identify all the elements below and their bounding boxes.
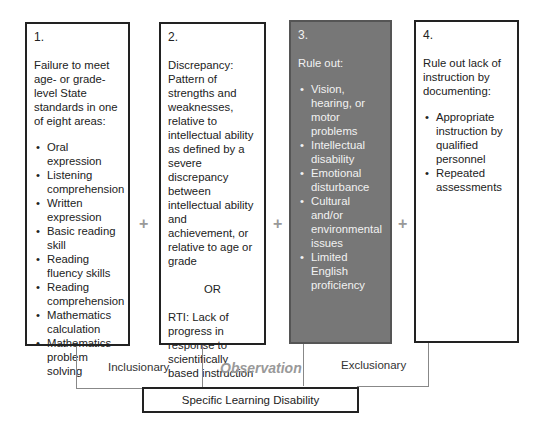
- box-intro: Rule out:: [298, 56, 383, 70]
- plus-icon: +: [398, 216, 407, 232]
- plus-icon: +: [273, 216, 282, 232]
- bracket-line-2: [202, 345, 203, 387]
- criterion-box-3: 3. Rule out: Vision, hearing, or motor p…: [289, 20, 392, 344]
- exclusionary-label: Exclusionary: [341, 359, 406, 371]
- criterion-box-2: 2. Discrepancy: Pattern of strengths and…: [159, 22, 266, 345]
- list-item: Intellectual disability: [311, 138, 383, 166]
- documentation-list: Appropriate instruction by qualified per…: [423, 110, 510, 194]
- criterion-box-4: 4. Rule out lack of instruction by docum…: [414, 20, 519, 343]
- list-item: Repeated assessments: [436, 166, 510, 194]
- list-item: Cultural and/or environmental issues: [311, 194, 383, 250]
- observation-label: Observation: [220, 360, 302, 376]
- list-item: Written expression: [47, 196, 121, 224]
- box-intro: Failure to meet age- or grade-level Stat…: [34, 58, 121, 128]
- bracket-line-3: [303, 344, 304, 386]
- plus-icon: +: [139, 216, 148, 232]
- list-item: Emotional disturbance: [311, 166, 383, 194]
- box-number: 2.: [168, 30, 257, 44]
- list-item: Listening comprehension: [47, 168, 121, 196]
- box-number: 4.: [423, 28, 510, 42]
- list-item: Basic reading skill: [47, 224, 121, 252]
- inclusionary-label: Inclusionary: [108, 361, 169, 373]
- criteria-list: Oral expression Listening comprehension …: [34, 140, 121, 378]
- or-label: OR: [168, 282, 257, 296]
- bracket-line-4: [428, 343, 429, 386]
- bracket-line-1: [76, 346, 77, 388]
- list-item: Reading fluency skills: [47, 252, 121, 280]
- list-item: Vision, hearing, or motor problems: [311, 82, 383, 138]
- box-intro: Rule out lack of instruction by document…: [423, 56, 510, 98]
- bracket-base-right: [357, 386, 429, 387]
- list-item: Reading comprehension: [47, 280, 121, 308]
- box-number: 1.: [34, 30, 121, 44]
- rule-out-list: Vision, hearing, or motor problems Intel…: [298, 82, 383, 292]
- list-item: Limited English proficiency: [311, 250, 383, 292]
- box-intro: Discrepancy: Pattern of strengths and we…: [168, 58, 257, 268]
- list-item: Oral expression: [47, 140, 121, 168]
- box-number: 3.: [298, 28, 383, 42]
- criterion-box-1: 1. Failure to meet age- or grade-level S…: [25, 22, 130, 346]
- list-item: Mathematics calculation: [47, 308, 121, 336]
- bracket-base-left: [76, 388, 143, 389]
- list-item: Appropriate instruction by qualified per…: [436, 110, 510, 166]
- specific-learning-disability-box: Specific Learning Disability: [142, 387, 359, 413]
